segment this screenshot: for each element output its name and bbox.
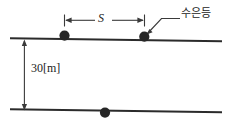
lower-reference-line: [10, 109, 222, 112]
lamp-top-right-dot: [139, 32, 149, 42]
lamp-bottom-center-dot: [100, 108, 110, 118]
lamp-top-left-dot: [59, 30, 69, 40]
upper-reference-line: [10, 38, 222, 41]
spacing-arrowhead-right: [137, 18, 143, 23]
mercury-lamp-label: 수은등: [181, 8, 210, 19]
spacing-dimension-label: S: [98, 12, 104, 24]
figure-canvas: S 30[m] 수은등: [0, 0, 229, 129]
height-arrowhead-top: [22, 40, 27, 46]
height-dimension-label: 30[m]: [31, 62, 60, 74]
spacing-arrowhead-left: [65, 18, 71, 23]
lamp-leader-line: [148, 19, 181, 34]
